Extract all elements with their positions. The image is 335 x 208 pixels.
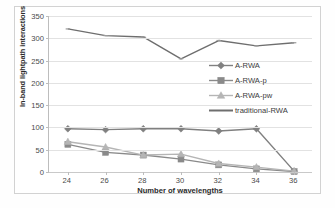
legend-item-traditional-rwa[interactable]: traditional-RWA (208, 103, 330, 118)
legend-label: A-RWA (234, 61, 260, 70)
x-tick-label: 26 (100, 176, 108, 185)
legend-label: A-RWA-p (234, 76, 267, 85)
x-tick-mark (294, 172, 295, 175)
legend-label: A-RWA-pw (234, 91, 272, 100)
series-a-rwa-pw (64, 138, 297, 174)
y-tick-mark (46, 38, 49, 39)
y-tick-label: 150 (20, 101, 44, 110)
data-point-marker (178, 125, 185, 132)
y-tick-label: 0 (20, 168, 44, 177)
y-tick-mark (46, 127, 49, 128)
line-marker-icon (208, 105, 234, 116)
x-axis-title: Number of wavelengths (48, 186, 312, 195)
y-tick-mark (46, 172, 49, 173)
x-tick-label: 24 (63, 176, 71, 185)
data-point-marker (64, 125, 71, 132)
y-tick-label: 200 (20, 78, 44, 87)
y-tick-label: 300 (20, 34, 44, 43)
x-tick-label: 30 (176, 176, 184, 185)
gridline (49, 38, 312, 39)
y-tick-mark (46, 16, 49, 17)
gridline (49, 16, 312, 17)
x-tick-mark (181, 172, 182, 175)
y-axis-tick-labels: 050100150200250300350 (20, 0, 44, 208)
x-tick-mark (219, 172, 220, 175)
y-tick-mark (46, 61, 49, 62)
y-tick-label: 100 (20, 123, 44, 132)
series-line (68, 29, 294, 59)
series-traditional-rwa (66, 29, 297, 59)
x-tick-mark (256, 172, 257, 175)
legend-item-a-rwa[interactable]: A-RWA (208, 58, 330, 73)
legend-item-a-rwa-p[interactable]: A-RWA-p (208, 73, 330, 88)
gridline (49, 150, 312, 151)
x-tick-mark (106, 172, 107, 175)
x-tick-mark (68, 172, 69, 175)
diamond-marker-icon (208, 60, 234, 71)
square-marker-icon (208, 75, 234, 86)
legend-label: traditional-RWA (234, 106, 288, 115)
y-tick-label: 50 (20, 145, 44, 154)
y-tick-mark (46, 150, 49, 151)
x-tick-label: 34 (251, 176, 259, 185)
legend-item-a-rwa-pw[interactable]: A-RWA-pw (208, 88, 330, 103)
y-tick-mark (46, 105, 49, 106)
y-tick-label: 250 (20, 56, 44, 65)
x-tick-label: 36 (289, 176, 297, 185)
x-tick-mark (143, 172, 144, 175)
data-point-marker (140, 125, 147, 132)
chart-figure: In-band lightpath interactions 050100150… (0, 0, 335, 208)
y-tick-label: 350 (20, 12, 44, 21)
data-point-marker (215, 128, 222, 135)
x-tick-label: 32 (213, 176, 221, 185)
chart-legend: A-RWAA-RWA-pA-RWA-pwtraditional-RWA (208, 58, 330, 118)
gridline (49, 127, 312, 128)
triangle-marker-icon (208, 90, 234, 101)
y-tick-mark (46, 83, 49, 84)
x-tick-label: 28 (138, 176, 146, 185)
